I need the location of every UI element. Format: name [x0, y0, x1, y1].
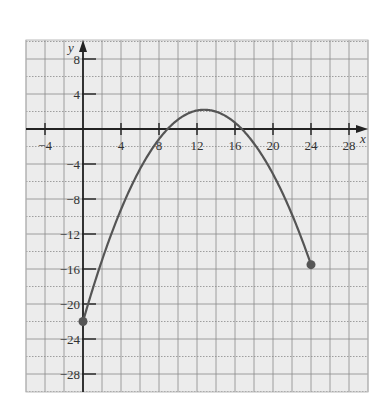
y-tick-label: −24 [60, 332, 81, 347]
x-tick-label: 16 [229, 138, 243, 153]
y-tick-label: −16 [60, 262, 81, 277]
x-axis-label: x [359, 131, 366, 146]
x-tick-label: 24 [305, 138, 319, 153]
x-tick-label: 28 [343, 138, 356, 153]
y-axis-label: y [66, 40, 74, 55]
x-tick-label: 20 [267, 138, 280, 153]
left-endpoint-dot [79, 317, 88, 326]
parabola-chart: −448121620242884−4−8−12−16−20−24−28 x y [0, 0, 382, 415]
x-tick-label: −4 [38, 138, 52, 153]
y-tick-label: −8 [66, 192, 80, 207]
right-endpoint-dot [307, 260, 316, 269]
y-tick-label: −12 [60, 227, 80, 242]
x-tick-label: 4 [118, 138, 125, 153]
y-tick-label: −4 [66, 157, 80, 172]
y-tick-label: 4 [74, 87, 81, 102]
y-tick-label: −20 [60, 297, 80, 312]
x-tick-label: 12 [191, 138, 204, 153]
y-tick-label: −28 [60, 367, 80, 382]
y-tick-label: 8 [74, 52, 81, 67]
